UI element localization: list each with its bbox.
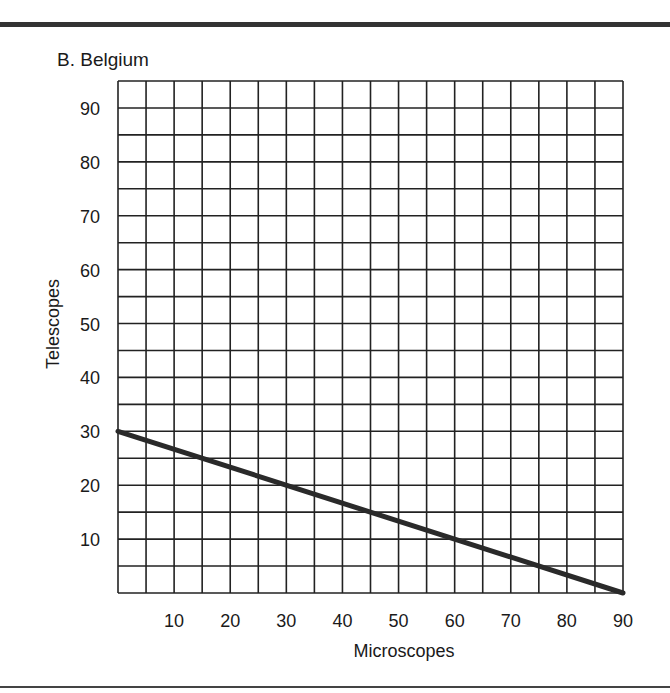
y-tick-label: 90 bbox=[80, 99, 100, 119]
y-tick-label: 50 bbox=[80, 315, 100, 335]
x-tick-label: 10 bbox=[164, 611, 184, 631]
y-tick-label: 60 bbox=[80, 261, 100, 281]
y-tick-label: 70 bbox=[80, 207, 100, 227]
x-tick-label: 90 bbox=[613, 611, 633, 631]
x-tick-label: 70 bbox=[501, 611, 521, 631]
y-axis-label: Telescopes bbox=[43, 279, 63, 369]
y-tick-label: 40 bbox=[80, 368, 100, 388]
x-tick-label: 50 bbox=[389, 611, 409, 631]
y-tick-label: 20 bbox=[80, 476, 100, 496]
x-axis-label: Microscopes bbox=[353, 641, 454, 661]
bottom-rule bbox=[0, 686, 670, 688]
x-tick-label: 20 bbox=[220, 611, 240, 631]
y-tick-label: 80 bbox=[80, 153, 100, 173]
x-tick-label: 40 bbox=[332, 611, 352, 631]
y-tick-label: 30 bbox=[80, 422, 100, 442]
x-tick-label: 60 bbox=[445, 611, 465, 631]
chart-plot: 102030405060708090102030405060708090Micr… bbox=[0, 0, 670, 693]
x-tick-label: 80 bbox=[557, 611, 577, 631]
y-tick-label: 10 bbox=[80, 530, 100, 550]
x-tick-label: 30 bbox=[276, 611, 296, 631]
